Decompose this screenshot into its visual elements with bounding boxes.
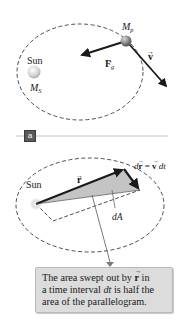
callout-box: The area swept out by r in a time interv…	[35, 267, 173, 313]
sun-label-a: Sun	[27, 55, 43, 66]
part-b: Sun → r dr = v dt → → dA	[16, 158, 166, 267]
velocity-label: → v	[147, 48, 154, 62]
force-label: → Fg	[105, 57, 115, 70]
sun-mass-label: MS	[29, 82, 42, 94]
part-a: Sun MS Mp → Fg → v	[17, 21, 166, 120]
svg-text:→: →	[153, 158, 159, 164]
panel-tag-a: a	[24, 130, 36, 142]
svg-text:v: v	[148, 51, 153, 62]
svg-text:→: →	[138, 158, 144, 164]
planet-icon	[121, 36, 132, 47]
area-label: dA	[112, 212, 123, 222]
svg-text:Fg: Fg	[105, 58, 115, 70]
radius-label: → r	[76, 172, 83, 185]
callout-line-3: area of the parallelogram.	[42, 296, 166, 308]
gravity-force-arrow	[82, 42, 123, 55]
planet-mass-label: Mp	[121, 21, 134, 33]
sun-icon	[28, 66, 41, 79]
callout-line-2: a time interval dt is half the	[42, 284, 166, 296]
svg-text:r: r	[77, 174, 82, 185]
sun-label-b: Sun	[26, 179, 42, 190]
displacement-equation-label: dr = v dt → →	[134, 158, 166, 171]
callout-line-1: The area swept out by r in	[42, 272, 166, 284]
